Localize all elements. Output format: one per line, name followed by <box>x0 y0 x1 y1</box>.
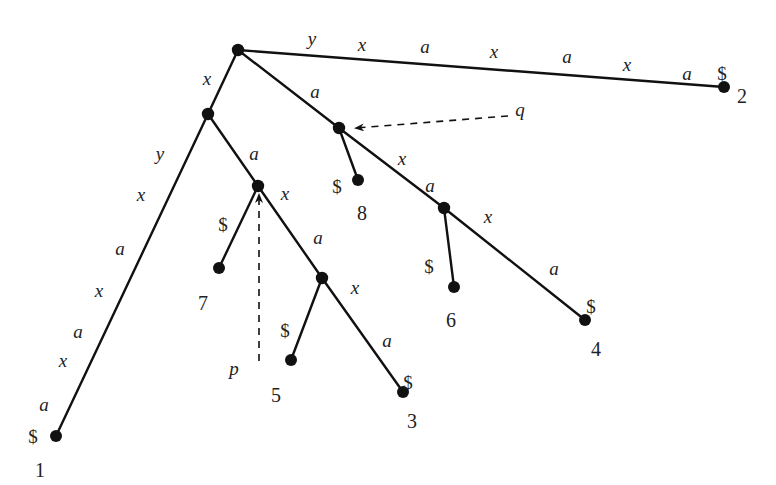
leaf-number-6: 6 <box>446 309 456 331</box>
edge-char-label: x <box>58 350 68 371</box>
edge-nx-leaf1 <box>56 114 208 436</box>
edge-char-label: x <box>136 184 146 205</box>
edge-root-q <box>238 50 339 128</box>
edge-char-label: a <box>562 46 572 67</box>
edge-naxa-leaf4 <box>444 208 585 320</box>
internal-node-nx <box>202 108 214 120</box>
edge-char-label: a <box>549 258 559 279</box>
leaf-number-8: 8 <box>357 202 367 224</box>
edge-char-label: a <box>310 81 320 102</box>
tree-nodes <box>50 44 730 442</box>
edge-char-label: $ <box>424 256 434 277</box>
edge-char-label: $ <box>28 426 38 447</box>
edge-char-label: x <box>397 148 407 169</box>
edge-char-label: $ <box>332 176 342 197</box>
leaf-number-3: 3 <box>407 410 417 432</box>
edge-char-label: a <box>313 227 323 248</box>
leaf-node-leaf5 <box>285 354 297 366</box>
edge-char-label: a <box>682 63 692 84</box>
leaf-number-1: 1 <box>35 459 45 481</box>
edge-char-label: a <box>249 143 259 164</box>
edge-char-label: $ <box>717 63 727 84</box>
edge-char-label: x <box>94 280 104 301</box>
leaf-node-leaf1 <box>50 430 62 442</box>
leaf-number-5: 5 <box>271 384 281 406</box>
pointer-label-p: p <box>227 358 239 379</box>
internal-node-naxa <box>438 202 450 214</box>
edge-char-label: $ <box>403 372 413 393</box>
leaf-node-leaf7 <box>213 262 225 274</box>
edge-char-label: a <box>115 238 125 259</box>
edge-char-label: a <box>420 36 430 57</box>
leaf-number-2: 2 <box>737 85 747 107</box>
edge-char-label: x <box>350 277 360 298</box>
internal-node-q <box>333 122 345 134</box>
edge-char-label: a <box>425 175 435 196</box>
leaf-node-leaf6 <box>448 281 460 293</box>
internal-node-root <box>232 44 244 56</box>
edge-nxaxa-leaf5 <box>291 278 322 360</box>
pointer-arrow-q <box>356 116 508 128</box>
edge-char-label: y <box>306 28 317 49</box>
edge-char-label: $ <box>218 214 228 235</box>
tree-edges <box>56 50 724 436</box>
edge-naxa-leaf6 <box>444 208 454 287</box>
edge-char-label: a <box>39 394 49 415</box>
suffix-tree-diagram: qp yxaxaxa$xayxaxaxa$ax$ax$a$$xax$a$ 123… <box>0 0 776 485</box>
edge-char-label: $ <box>280 320 290 341</box>
edge-char-label: x <box>483 206 493 227</box>
edge-labels: yxaxaxa$xayxaxaxa$ax$ax$a$$xax$a$ <box>28 28 727 447</box>
internal-node-p <box>252 180 264 192</box>
leaf-number-7: 7 <box>198 292 208 314</box>
leaf-number-4: 4 <box>591 338 601 360</box>
edge-char-label: x <box>622 54 632 75</box>
edge-char-label: a <box>382 330 392 351</box>
pointer-label-q: q <box>515 99 525 120</box>
leaf-labels: 12345678 <box>35 85 747 481</box>
edge-char-label: a <box>73 321 83 342</box>
edge-char-label: x <box>280 183 290 204</box>
edge-char-label: x <box>357 34 367 55</box>
edge-root-nx <box>208 50 238 114</box>
edge-char-label: x <box>202 68 212 89</box>
leaf-node-leaf8 <box>352 174 364 186</box>
edge-char-label: $ <box>586 296 596 317</box>
edge-char-label: x <box>489 41 499 62</box>
internal-node-nxaxa <box>316 272 328 284</box>
edge-char-label: y <box>154 143 165 164</box>
